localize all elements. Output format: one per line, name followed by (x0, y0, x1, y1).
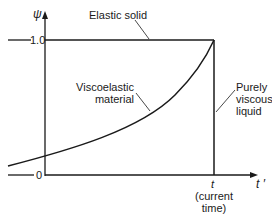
viscoelastic-label-2: material (60, 93, 134, 105)
viscoelastic-leader (136, 93, 150, 111)
elastic-leader (135, 20, 149, 39)
viscous-label-1: Purely (236, 81, 267, 93)
relaxation-diagram (0, 0, 272, 216)
x-axis-label: t ′ (256, 178, 265, 190)
viscous-leader (216, 90, 235, 112)
viscous-label-2: viscous (236, 93, 272, 105)
viscous-label-3: liquid (236, 105, 262, 117)
tick-one: 1.0 (30, 34, 45, 46)
viscoelastic-label-1: Viscoelastic (60, 81, 134, 93)
elastic-solid-label: Elastic solid (89, 9, 147, 21)
y-axis-arrow-icon (42, 11, 48, 19)
x-marker-t: t (211, 178, 214, 190)
current-time-label-1: (current (184, 190, 244, 202)
y-axis-label: ψ (33, 8, 42, 20)
current-time-label-2: time) (184, 202, 244, 214)
tick-zero: 0 (36, 169, 42, 181)
